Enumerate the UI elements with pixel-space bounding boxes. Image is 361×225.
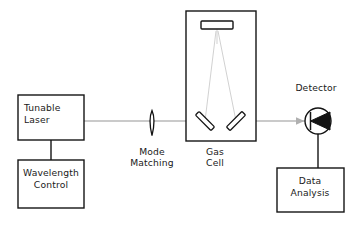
gas-cell-box[interactable] [186,11,256,141]
wavelength-control-block[interactable]: Wavelength Control [18,160,84,208]
gas-cell-assembly[interactable] [186,11,256,141]
data-analysis-label-line2: Analysis [290,187,329,198]
gas-cell-top-mirror[interactable] [201,21,233,29]
wavelength-control-label-line2: Control [34,179,68,190]
tunable-laser-block[interactable]: Tunable Laser [18,95,84,140]
gas-cell-label-line2: Cell [206,157,224,168]
diagram-root: Tunable Laser Wavelength Control [0,0,361,225]
wavelength-control-label-line1: Wavelength [23,167,79,178]
data-analysis-block[interactable]: Data Analysis [277,168,344,212]
detector-label: Detector [295,82,336,93]
photodetector[interactable] [305,108,331,134]
mode-matching-label-line2: Matching [130,157,173,168]
mode-matching-lens[interactable] [150,111,154,136]
gas-cell-label-line1: Gas [206,146,224,157]
data-analysis-label-line1: Data [299,175,322,186]
tunable-laser-label-line1: Tunable [23,102,61,113]
beam-arrowhead-into-detector [296,117,305,125]
tunable-laser-label-line2: Laser [24,114,50,125]
mode-matching-label-line1: Mode [139,146,165,157]
mode-matching-lens-icon[interactable] [150,111,154,136]
optical-setup-diagram: Tunable Laser Wavelength Control [0,0,361,225]
